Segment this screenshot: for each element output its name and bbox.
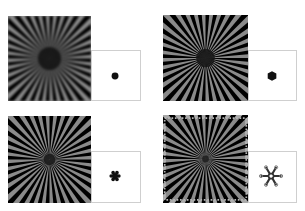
psf-box-top-right [248,50,297,101]
siemens-star-bottom-left [8,116,91,203]
siemens-star-graphic [163,15,248,101]
siemens-star-top-left [8,16,91,101]
blurred-center [38,47,61,70]
siemens-star-top-right [163,15,248,101]
blurred-center [196,49,215,68]
psf-disk-icon [92,51,140,100]
psf-box-bottom-right [248,151,297,203]
siemens-star-graphic [8,16,91,101]
psf-six-lobed-icon [92,152,140,202]
siemens-star-graphic [8,116,91,203]
siemens-star-graphic [163,115,248,203]
blurred-center [202,156,209,163]
psf-box-bottom-left [91,151,141,203]
psf-box-top-left [91,50,141,101]
siemens-star-bottom-right [163,115,248,203]
psf-six-armed-star-icon [249,152,296,202]
blurred-center [44,154,56,166]
psf-hexagon-icon [249,51,296,100]
